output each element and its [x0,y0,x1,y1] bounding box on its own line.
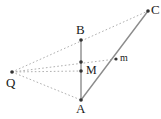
geometry-figure: QBACMm [0,0,161,119]
point-m [114,57,117,60]
label-a: A [76,102,85,115]
label-c: C [151,3,160,16]
label-m: M [86,64,97,76]
seg-A-C [81,11,148,100]
point-m [79,69,83,73]
seg-Q-M [12,71,81,72]
point-b [79,38,83,42]
point-p1 [79,60,83,64]
point-q [10,70,14,74]
seg-Q-A [12,72,81,100]
label-m: m [120,53,128,63]
solid-lines-group [81,11,148,100]
label-q: Q [6,76,15,89]
seg-Q-P1-m [12,59,116,72]
point-c [146,9,150,13]
label-b: B [76,23,85,36]
